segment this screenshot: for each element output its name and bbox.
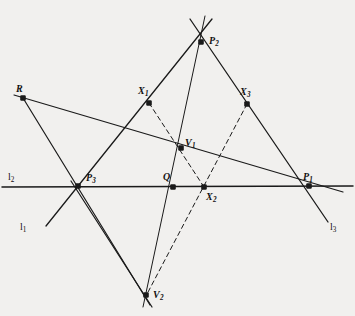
segments-layer (2, 16, 353, 307)
label-point-v2: V2 (153, 290, 163, 302)
point-x3 (244, 101, 250, 107)
geometry-canvas (0, 0, 355, 316)
label-point-x3: X3 (240, 87, 250, 99)
line-P3-to-V2 (71, 181, 152, 307)
point-p2 (198, 39, 204, 45)
point-p3 (75, 183, 81, 189)
points-layer (20, 39, 312, 298)
point-q (170, 184, 176, 190)
point-p1 (306, 183, 312, 189)
label-line-l2: l2 (8, 172, 14, 184)
label-point-x1: X1 (138, 86, 148, 98)
point-x2 (201, 184, 207, 190)
label-point-p3: P3 (86, 173, 96, 185)
label-line-l1: l1 (20, 222, 26, 234)
dashed-X3-to-V2 (147, 104, 247, 294)
label-point-x2: X2 (206, 192, 216, 204)
line-R-to-P1 (14, 95, 343, 192)
geometry-figure: RP2X1X3V1P3QX2P1V2l1l2l3 (0, 0, 355, 316)
label-line-l3: l3 (330, 222, 336, 234)
line-l1-through-P3-P2 (46, 19, 212, 226)
point-r (20, 95, 26, 101)
line-P2-through-Q-to-V2 (143, 16, 205, 307)
label-point-p2: P2 (209, 36, 219, 48)
label-point-r: R (16, 84, 23, 94)
point-v1 (178, 145, 184, 151)
line-l2-horizontal (2, 186, 353, 187)
label-point-q: Q (163, 172, 170, 182)
point-x1 (146, 100, 152, 106)
label-point-p1: P1 (303, 172, 313, 184)
point-v2 (143, 292, 149, 298)
dashed-X1-to-X2 (149, 103, 204, 187)
label-point-v1: V1 (185, 138, 195, 150)
